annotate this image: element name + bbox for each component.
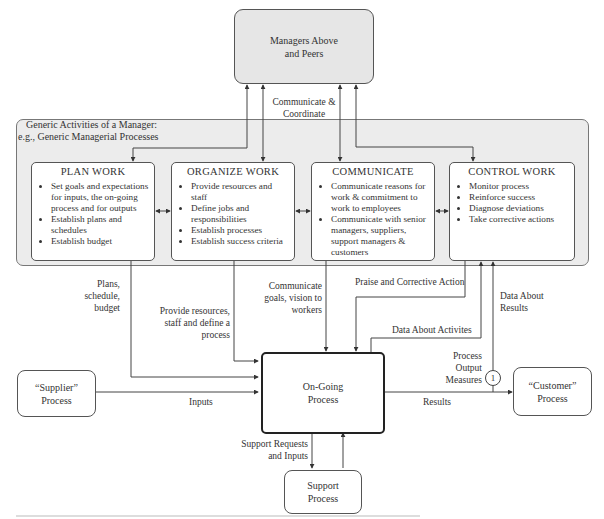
- process-output-label: ProcessOutputMeasures: [430, 350, 482, 386]
- measure-point-1: 1: [485, 370, 501, 386]
- data-activities-label: Data About Activites: [392, 324, 472, 336]
- provide-resources-label: Provide resources,staff and define aproc…: [130, 305, 230, 341]
- support-requests-label: Support Requestsand Inputs: [220, 438, 308, 462]
- customer-process-box: “Customer”Process: [513, 367, 592, 416]
- communicate-goals-label: Communicategoals, vision toworkers: [240, 280, 322, 316]
- support-process-box: SupportProcess: [284, 470, 362, 514]
- inputs-label: Inputs: [189, 396, 213, 408]
- results-label: Results: [423, 396, 451, 408]
- data-results-label: Data AboutResults: [500, 290, 544, 314]
- ongoing-process-box: On-GoingProcess: [261, 352, 385, 434]
- praise-label: Praise and Corrective Action: [355, 276, 464, 288]
- supplier-process-box: “Supplier”Process: [17, 370, 96, 417]
- plans-label: Plans,schedule,budget: [60, 278, 120, 314]
